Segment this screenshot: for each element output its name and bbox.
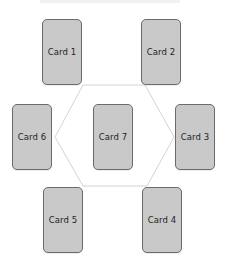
card-label: Card 5 bbox=[49, 215, 78, 225]
diagram-canvas: Card 1 Card 2 Card 3 Card 4 Card 5 Card … bbox=[0, 0, 226, 266]
card-label: Card 4 bbox=[148, 215, 177, 225]
card-5[interactable]: Card 5 bbox=[43, 187, 83, 253]
card-3[interactable]: Card 3 bbox=[175, 104, 215, 170]
card-2[interactable]: Card 2 bbox=[141, 19, 181, 85]
card-label: Card 6 bbox=[18, 132, 47, 142]
card-4[interactable]: Card 4 bbox=[142, 187, 182, 253]
card-label: Card 2 bbox=[147, 47, 176, 57]
card-1[interactable]: Card 1 bbox=[42, 19, 82, 85]
card-label: Card 7 bbox=[99, 132, 128, 142]
card-6[interactable]: Card 6 bbox=[12, 104, 52, 170]
card-label: Card 3 bbox=[181, 132, 210, 142]
card-label: Card 1 bbox=[48, 47, 77, 57]
card-7[interactable]: Card 7 bbox=[93, 104, 133, 170]
